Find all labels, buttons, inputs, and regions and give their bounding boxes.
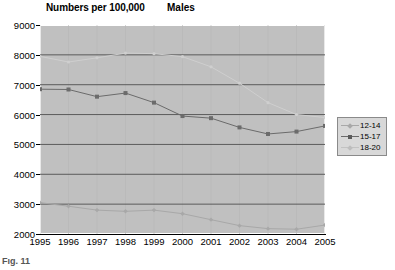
y-axis-tick-label: 8000 [14,49,35,60]
legend-marker-icon-18-20 [340,142,360,153]
legend-marker-icon-15-17 [340,131,360,142]
cropped-caption: Fig. 11 [0,258,395,270]
x-axis-tick-label: 1997 [86,236,107,247]
legend-label-18-20: 18-20 [360,142,380,153]
y-axis-tick-label: 9000 [14,20,35,31]
legend-label-15-17: 15-17 [360,131,380,142]
chart-titles: Numbers per 100,000 Males [0,0,395,18]
chart-title: Numbers per 100,000 [46,2,145,13]
chart-container: Numbers per 100,000 Males 20003000400050… [0,0,395,270]
cropped-caption-text: Fig. 11 [2,258,30,266]
x-axis-tick-label: 1995 [29,236,50,247]
x-axis-tick-label: 1996 [58,236,79,247]
x-axis-tick-label: 2004 [286,236,307,247]
x-axis-line [40,234,326,235]
legend-item-12-14[interactable]: 12-14 [340,120,384,131]
chart-subtitle: Males [167,2,195,13]
legend-marker-icon-12-14 [340,120,360,131]
x-axis-labels: 1995199619971998199920002001200220032004… [0,236,395,252]
legend-item-15-17[interactable]: 15-17 [340,131,384,142]
y-axis-tick-label: 5000 [14,139,35,150]
y-axis-tick-label: 3000 [14,199,35,210]
legend-label-12-14: 12-14 [360,120,380,131]
y-axis-labels: 20003000400050006000700080009000 [0,25,40,234]
plot-area [40,25,325,234]
legend-item-18-20[interactable]: 18-20 [340,142,384,153]
chart-legend: 12-14 15-17 18-20 [337,117,387,156]
y-axis-tick-label: 6000 [14,109,35,120]
y-axis-tick-label: 4000 [14,169,35,180]
plot-svg [40,25,325,234]
x-axis-tick-label: 2000 [172,236,193,247]
x-axis-tick-label: 1999 [143,236,164,247]
x-axis-tick-label: 2002 [229,236,250,247]
x-axis-tick-label: 2005 [314,236,335,247]
y-axis-tick-label: 7000 [14,79,35,90]
x-axis-tick-label: 2003 [257,236,278,247]
x-axis-tick-label: 2001 [200,236,221,247]
x-axis-tick-label: 1998 [115,236,136,247]
